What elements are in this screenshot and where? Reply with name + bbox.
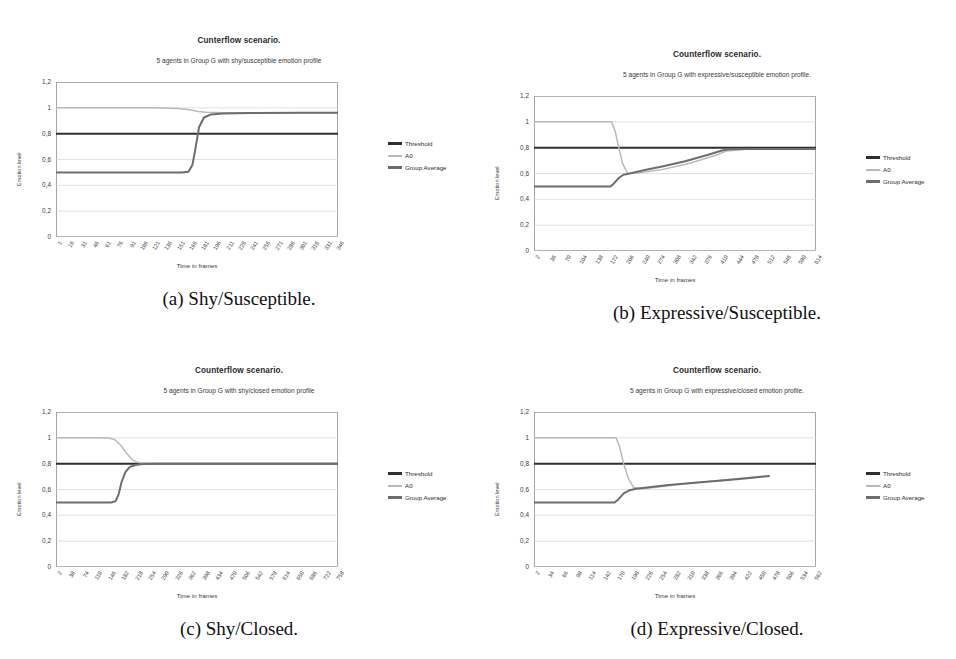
legend-swatch-icon	[388, 472, 402, 475]
legend-item[interactable]: A0	[388, 149, 447, 161]
legend-item[interactable]: A0	[866, 163, 925, 175]
y-tick-label: 1,2	[504, 408, 529, 415]
legend-label: Group Average	[883, 176, 925, 188]
chart-title: Counterflow scenario.	[0, 366, 478, 375]
figure-caption: (b) Expressive/Susceptible.	[478, 302, 956, 324]
legend-item[interactable]: Group Average	[866, 175, 925, 187]
legend-item[interactable]: Threshold	[866, 467, 925, 479]
legend-item[interactable]: Group Average	[388, 161, 447, 173]
legend-label: Group Average	[405, 492, 447, 504]
y-tick-label: 0,6	[504, 486, 529, 493]
y-tick-label: 0,6	[26, 486, 51, 493]
legend-swatch-icon	[866, 180, 880, 183]
legend-swatch-icon	[866, 169, 880, 171]
legend-swatch-icon	[866, 485, 880, 487]
legend-swatch-icon	[388, 155, 402, 157]
y-tick-label: 1,2	[26, 408, 51, 415]
legend-label: Group Average	[883, 492, 925, 504]
legend-swatch-icon	[388, 496, 402, 499]
y-axis-label: Emotion level	[16, 482, 22, 516]
plot-area	[534, 96, 816, 251]
y-tick-label: 1,2	[26, 78, 51, 85]
legend-label: Group Average	[405, 162, 447, 174]
figure-page: Cunterflow scenario.5 agents in Group G …	[0, 0, 956, 659]
chart-legend: ThresholdA0Group Average	[388, 467, 447, 503]
legend-label: A0	[883, 480, 891, 492]
chart-title: Cunterflow scenario.	[0, 36, 478, 45]
legend-label: A0	[883, 164, 891, 176]
x-axis-label: Time in frames	[645, 276, 705, 283]
y-tick-label: 0,6	[504, 170, 529, 177]
y-tick-label: 0,2	[26, 537, 51, 544]
y-axis-label: Emotion level	[494, 482, 500, 516]
legend-item[interactable]: Threshold	[388, 467, 447, 479]
y-tick-label: 0,8	[504, 144, 529, 151]
figure-caption: (a) Shy/Susceptible.	[0, 288, 478, 310]
chart-legend: ThresholdA0Group Average	[866, 151, 925, 187]
y-tick-label: 0,8	[504, 460, 529, 467]
y-tick-label: 1	[504, 434, 529, 441]
y-tick-label: 0	[26, 563, 51, 570]
y-tick-label: 0	[504, 563, 529, 570]
legend-label: Threshold	[883, 152, 911, 164]
legend-swatch-icon	[866, 472, 880, 475]
y-tick-label: 1	[26, 104, 51, 111]
legend-label: A0	[405, 150, 413, 162]
y-tick-label: 0,8	[26, 460, 51, 467]
legend-item[interactable]: A0	[866, 479, 925, 491]
y-axis-label: Emotion level	[16, 152, 22, 186]
legend-item[interactable]: Threshold	[866, 151, 925, 163]
legend-item[interactable]: Group Average	[866, 491, 925, 503]
x-axis-label: Time in frames	[167, 262, 227, 269]
y-tick-label: 0,4	[26, 511, 51, 518]
y-tick-label: 1,2	[504, 92, 529, 99]
plot-area	[56, 412, 338, 567]
legend-label: Threshold	[405, 468, 433, 480]
y-tick-label: 0,6	[26, 156, 51, 163]
y-tick-label: 0,8	[26, 130, 51, 137]
y-tick-label: 0,2	[26, 207, 51, 214]
chart-legend: ThresholdA0Group Average	[866, 467, 925, 503]
x-axis-label: Time in frames	[645, 592, 705, 599]
legend-swatch-icon	[866, 496, 880, 499]
chart-subtitle: 5 agents in Group G with expressive/susc…	[478, 71, 956, 78]
figure-caption: (c) Shy/Closed.	[0, 618, 478, 640]
y-tick-label: 0,4	[504, 511, 529, 518]
y-tick-label: 0,4	[26, 181, 51, 188]
y-tick-label: 0,2	[504, 537, 529, 544]
legend-label: Threshold	[883, 468, 911, 480]
chart-legend: ThresholdA0Group Average	[388, 137, 447, 173]
legend-label: Threshold	[405, 138, 433, 150]
figure-b: Counterflow scenario.5 agents in Group G…	[478, 14, 956, 343]
y-tick-label: 0,4	[504, 195, 529, 202]
x-axis-label: Time in frames	[167, 592, 227, 599]
y-tick-label: 1	[26, 434, 51, 441]
y-tick-label: 0	[26, 233, 51, 240]
figure-d: Counterflow scenario.5 agents in Group G…	[478, 330, 956, 659]
plot-area	[56, 82, 338, 237]
chart-subtitle: 5 agents in Group G with shy/closed emot…	[0, 387, 478, 394]
legend-swatch-icon	[388, 142, 402, 145]
chart-subtitle: 5 agents in Group G with shy/susceptible…	[0, 57, 478, 64]
plot-area	[534, 412, 816, 567]
legend-item[interactable]: Group Average	[388, 491, 447, 503]
chart-title: Counterflow scenario.	[478, 50, 956, 59]
chart-subtitle: 5 agents in Group G with expressive/clos…	[478, 387, 956, 394]
legend-label: A0	[405, 480, 413, 492]
figure-a: Cunterflow scenario.5 agents in Group G …	[0, 0, 478, 329]
legend-item[interactable]: Threshold	[388, 137, 447, 149]
y-tick-label: 0,2	[504, 221, 529, 228]
figure-caption: (d) Expressive/Closed.	[478, 618, 956, 640]
legend-swatch-icon	[388, 485, 402, 487]
y-tick-label: 1	[504, 118, 529, 125]
chart-title: Counterflow scenario.	[478, 366, 956, 375]
legend-swatch-icon	[388, 166, 402, 169]
y-axis-label: Emotion level	[494, 166, 500, 200]
legend-item[interactable]: A0	[388, 479, 447, 491]
figure-c: Counterflow scenario.5 agents in Group G…	[0, 330, 478, 659]
legend-swatch-icon	[866, 156, 880, 159]
y-tick-label: 0	[504, 247, 529, 254]
